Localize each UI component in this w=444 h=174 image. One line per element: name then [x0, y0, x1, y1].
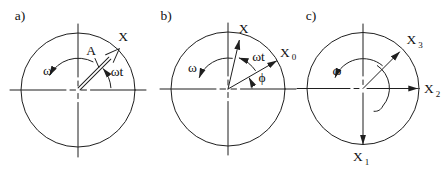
- vector-x-label-a: X: [118, 30, 128, 44]
- amplitude-leader-line-a: [95, 59, 99, 68]
- vector-x3-c: [363, 52, 400, 89]
- omega-label-b: ω: [188, 61, 197, 75]
- omega-rotation-arrow-b: [199, 58, 232, 77]
- vector-x2-subscript: 2: [436, 89, 441, 99]
- panel-label-a: a): [15, 9, 26, 23]
- omega-label-a: ω: [43, 64, 52, 78]
- vector-x1-label-c: X1: [353, 150, 369, 164]
- vector-x0-b: [228, 61, 277, 89]
- panel-label-b: b): [160, 9, 171, 23]
- vector-x-a-open-arrowhead: [106, 45, 124, 63]
- omega-label-c: ω: [333, 64, 342, 78]
- amplitude-label-a: A: [86, 44, 96, 58]
- vector-x3-base: X: [406, 32, 416, 47]
- vector-x1-base: X: [353, 149, 363, 164]
- vector-x3-subscript: 3: [418, 40, 423, 50]
- vector-x-label-b: X: [239, 22, 249, 36]
- vector-x-a-shaft: [78, 57, 111, 90]
- vector-x3-label-c: X3: [406, 33, 422, 47]
- omega-t-label-a: ωt: [111, 65, 124, 79]
- vector-x0-label-b: X0: [280, 46, 296, 60]
- panel-c-figure: [297, 24, 419, 145]
- panel-label-c: c): [306, 9, 317, 23]
- vector-x2-label-c: X2: [424, 82, 440, 96]
- phasor-diagram-figure: a) X A ω ωt b) X X0 ωt ϕ ω c) X3 X2 X1 ω: [0, 0, 444, 174]
- omega-rotation-arrow-c: [335, 58, 382, 77]
- vector-x0-subscript: 0: [292, 52, 297, 62]
- omega-t-label-b: ωt: [252, 50, 265, 64]
- vector-x2-base: X: [424, 81, 434, 96]
- panel-a-figure: [10, 24, 146, 157]
- figure-canvas: [0, 0, 444, 174]
- vector-x1-subscript: 1: [365, 157, 370, 167]
- panel-b-figure: [160, 23, 296, 155]
- vector-x0-base: X: [280, 45, 290, 60]
- omega-rotation-arrow-a: [50, 58, 93, 75]
- phi-angle-arc-b: [249, 78, 252, 88]
- vector-x-b: [228, 40, 239, 89]
- phi-label-b: ϕ: [258, 71, 265, 85]
